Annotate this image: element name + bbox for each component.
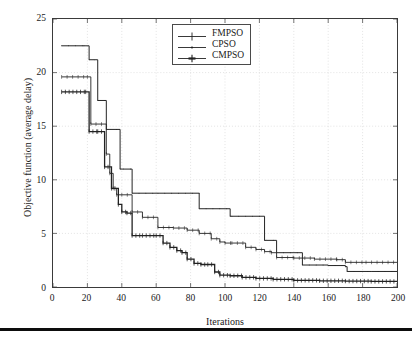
legend-item-cmpso: CMPSO — [177, 50, 244, 61]
legend-swatch-dot-icon — [177, 39, 207, 50]
x-tick-label: 60 — [136, 293, 176, 303]
y-tick-label: 25 — [12, 13, 46, 23]
x-tick-label: 100 — [205, 293, 245, 303]
x-tick-label: 40 — [101, 293, 141, 303]
x-axis-label: Iterations — [52, 316, 398, 327]
legend-item-cpso: CPSO — [177, 39, 244, 50]
chart-legend: FMPSO CPSO CMPSO — [172, 24, 251, 65]
x-tick-label: 80 — [170, 293, 210, 303]
legend-swatch-plus-icon — [177, 28, 207, 39]
x-tick-label: 0 — [32, 293, 72, 303]
figure-canvas: Objective function (average delay) 05101… — [0, 0, 412, 346]
x-tick-label: 120 — [240, 293, 280, 303]
x-tick-label: 160 — [309, 293, 349, 303]
y-tick-label: 0 — [12, 283, 46, 293]
legend-item-fmpso: FMPSO — [177, 28, 244, 39]
x-tick-label: 180 — [343, 293, 383, 303]
legend-swatch-asterisk-icon — [177, 50, 207, 61]
x-tick-label: 20 — [67, 293, 107, 303]
x-tick-label: 140 — [274, 293, 314, 303]
y-axis-label: Objective function (average delay) — [22, 38, 33, 258]
legend-label-fmpso: FMPSO — [212, 28, 243, 39]
x-tick-label: 200 — [378, 293, 412, 303]
legend-label-cmpso: CMPSO — [212, 50, 244, 61]
legend-label-cpso: CPSO — [212, 39, 236, 50]
page-bottom-rule — [0, 328, 412, 331]
